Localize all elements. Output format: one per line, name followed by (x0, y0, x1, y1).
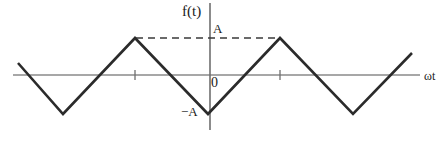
x-axis-label: ωt (424, 70, 435, 82)
negative-amplitude-label: −A (181, 105, 198, 118)
y-axis-label: f(t) (182, 4, 201, 19)
waveform-plot (0, 0, 446, 143)
origin-label: 0 (211, 76, 218, 90)
triangular-waveform-figure: f(t) A −A 0 ωt (0, 0, 446, 143)
positive-amplitude-label: A (213, 22, 222, 35)
